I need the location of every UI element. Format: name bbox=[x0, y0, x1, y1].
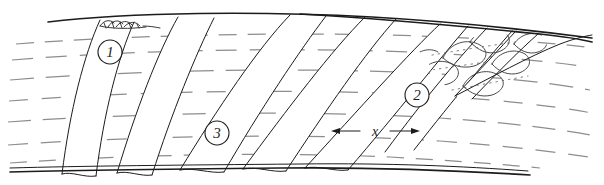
callout-3-label: 3 bbox=[212, 125, 221, 141]
callout-3: 3 bbox=[205, 121, 229, 145]
sketch-figure: x 1 3 2 bbox=[0, 0, 604, 185]
dimension-x-label: x bbox=[371, 124, 379, 139]
callout-1-label: 1 bbox=[106, 44, 114, 60]
callout-1: 1 bbox=[98, 40, 122, 64]
callout-2: 2 bbox=[405, 83, 429, 107]
callout-2-label: 2 bbox=[413, 87, 421, 103]
sketch-canvas: x 1 3 2 bbox=[0, 0, 604, 185]
